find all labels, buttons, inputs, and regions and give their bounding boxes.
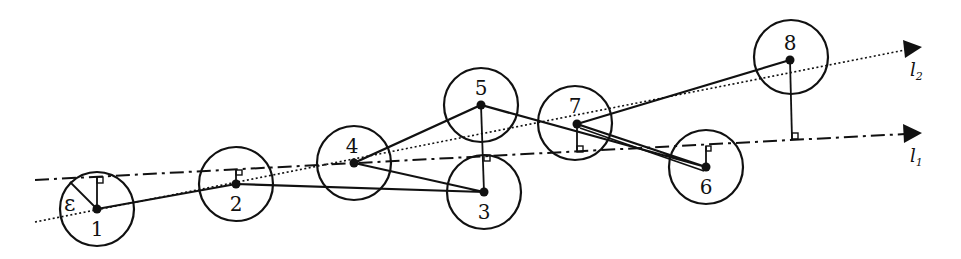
svg-text:8: 8 <box>784 31 797 55</box>
epsilon-label: ε <box>64 191 75 216</box>
svg-text:7: 7 <box>569 94 582 118</box>
label-l2: l2 <box>910 59 923 83</box>
arrow-l2-icon <box>903 40 922 58</box>
label-l1: l1 <box>910 145 923 169</box>
trajectory-path <box>97 60 790 209</box>
svg-text:2: 2 <box>230 192 243 216</box>
perpendicular-1 <box>97 177 103 209</box>
arrow-l1-icon <box>903 124 922 143</box>
trajectory-diagram: l1 l2 ε 1 2 3 <box>0 0 961 259</box>
perpendicular-5-3 <box>481 105 490 192</box>
perpendicular-8 <box>790 60 798 139</box>
node-6: 6 <box>669 130 743 204</box>
svg-text:5: 5 <box>475 76 488 100</box>
svg-text:1: 1 <box>91 217 104 241</box>
svg-text:4: 4 <box>346 134 359 158</box>
trajectory-segment-7-6-inner <box>580 128 704 171</box>
svg-text:6: 6 <box>700 175 713 199</box>
svg-text:3: 3 <box>478 200 491 224</box>
